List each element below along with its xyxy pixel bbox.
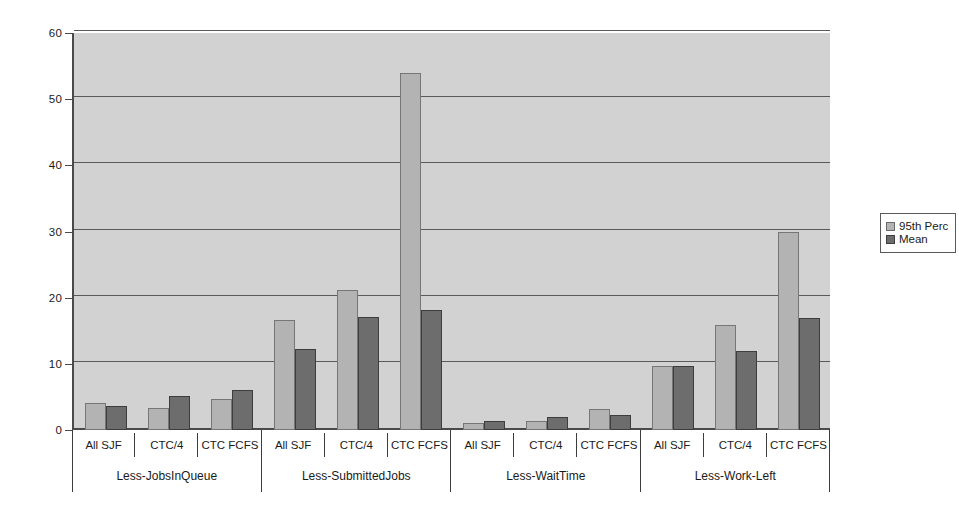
bar-pair (326, 33, 389, 430)
x-axis-group-text: Less-JobsInQueue (116, 469, 217, 483)
x-axis-category-text: CTC/4 (150, 439, 183, 451)
y-tick-label-30: 30 (49, 226, 62, 238)
x-axis-category-text: CTC FCFS (202, 439, 259, 451)
x-axis-group-label: Less-WaitTime (451, 460, 641, 492)
legend-swatch-mean (886, 235, 895, 244)
x-axis-category-label: CTC FCFS (767, 430, 830, 460)
legend-item: 95th Perc (886, 220, 948, 232)
bar-pair (641, 33, 704, 430)
x-axis-group-separator (72, 430, 73, 492)
legend-item-label: 95th Perc (899, 220, 948, 232)
bar-mean (232, 390, 253, 430)
bar-95th-perc (337, 290, 358, 430)
bar-95th-perc (715, 325, 736, 430)
bar-mean (736, 351, 757, 430)
x-axis-category-text: CTC FCFS (391, 439, 448, 451)
bars-layer (74, 33, 830, 430)
x-axis-category-text: All SJF (654, 439, 690, 451)
x-axis-group-label: Less-Work-Left (641, 460, 831, 492)
y-tick-mark-30 (65, 232, 72, 233)
bar-mean (106, 406, 127, 430)
bar-95th-perc (526, 421, 547, 430)
y-tick-label-20: 20 (49, 292, 62, 304)
x-axis-category-text: All SJF (85, 439, 121, 451)
bar-mean (169, 396, 190, 430)
bar-95th-perc (463, 423, 484, 430)
y-tick-mark-40 (65, 165, 72, 166)
y-tick-label-50: 50 (49, 93, 62, 105)
bar-95th-perc (400, 73, 421, 430)
bar-chart: 0102030405060 All SJFCTC/4CTC FCFSAll SJ… (0, 0, 959, 515)
x-axis-category-label: All SJF (262, 430, 325, 460)
bar-95th-perc (211, 399, 232, 430)
bar-mean (799, 318, 820, 430)
x-axis-group-text: Less-Work-Left (695, 469, 776, 483)
x-axis-category-label: CTC FCFS (388, 430, 451, 460)
x-axis-category-label: All SJF (641, 430, 704, 460)
bar-group (74, 33, 263, 430)
x-axis-category-label: CTC/4 (514, 430, 577, 460)
bar-pair (452, 33, 515, 430)
y-tick-mark-10 (65, 364, 72, 365)
bar-pair (263, 33, 326, 430)
legend-item: Mean (886, 233, 948, 245)
legend-swatch-95th-perc (886, 222, 895, 231)
x-axis-category-text: All SJF (464, 439, 500, 451)
x-axis-group-text: Less-SubmittedJobs (302, 469, 411, 483)
bar-mean (547, 417, 568, 430)
x-axis-group-row: Less-JobsInQueueLess-SubmittedJobsLess-W… (72, 460, 830, 492)
bar-mean (484, 421, 505, 430)
x-axis-category-label: CTC FCFS (198, 430, 261, 460)
y-tick-mark-60 (65, 33, 72, 34)
x-axis-category-label: CTC/4 (135, 430, 198, 460)
x-axis-group-label: Less-JobsInQueue (72, 460, 262, 492)
y-tick-mark-0 (65, 430, 72, 431)
bar-pair (200, 33, 263, 430)
y-axis: 0102030405060 (0, 33, 72, 433)
x-axis-group-separator (829, 430, 830, 492)
bar-mean (295, 349, 316, 430)
x-axis-category-label: CTC FCFS (577, 430, 640, 460)
bar-pair (704, 33, 767, 430)
y-tick-label-60: 60 (49, 27, 62, 39)
x-axis-category-label: All SJF (72, 430, 135, 460)
bar-95th-perc (778, 232, 799, 430)
x-axis-category-label: All SJF (451, 430, 514, 460)
x-axis-category-text: CTC/4 (529, 439, 562, 451)
bar-mean (673, 366, 694, 430)
bar-pair (578, 33, 641, 430)
bar-mean (358, 317, 379, 430)
x-axis-category-text: CTC/4 (340, 439, 373, 451)
bar-mean (610, 415, 631, 430)
y-tick-mark-20 (65, 298, 72, 299)
bar-pair (74, 33, 137, 430)
bar-pair (767, 33, 830, 430)
bar-95th-perc (652, 366, 673, 430)
legend: 95th PercMean (880, 213, 956, 253)
x-axis-category-text: All SJF (275, 439, 311, 451)
bar-95th-perc (274, 320, 295, 430)
bar-group (452, 33, 641, 430)
y-tick-label-10: 10 (49, 358, 62, 370)
x-axis: All SJFCTC/4CTC FCFSAll SJFCTC/4CTC FCFS… (72, 430, 830, 492)
x-axis-category-text: CTC FCFS (770, 439, 827, 451)
x-axis-category-text: CTC/4 (719, 439, 752, 451)
bar-pair (515, 33, 578, 430)
y-tick-mark-50 (65, 99, 72, 100)
bar-95th-perc (148, 408, 169, 430)
y-tick-label-0: 0 (55, 424, 62, 436)
bar-group (263, 33, 452, 430)
bar-group (641, 33, 830, 430)
bar-mean (421, 310, 442, 430)
legend-item-label: Mean (899, 233, 928, 245)
x-axis-category-label: CTC/4 (704, 430, 767, 460)
bar-95th-perc (589, 409, 610, 430)
x-axis-category-label: CTC/4 (325, 430, 388, 460)
x-axis-category-row: All SJFCTC/4CTC FCFSAll SJFCTC/4CTC FCFS… (72, 430, 830, 460)
bar-pair (389, 33, 452, 430)
x-axis-category-text: CTC FCFS (581, 439, 638, 451)
gridline-60 (74, 30, 830, 31)
bar-95th-perc (85, 403, 106, 430)
bar-pair (137, 33, 200, 430)
x-axis-group-label: Less-SubmittedJobs (262, 460, 452, 492)
